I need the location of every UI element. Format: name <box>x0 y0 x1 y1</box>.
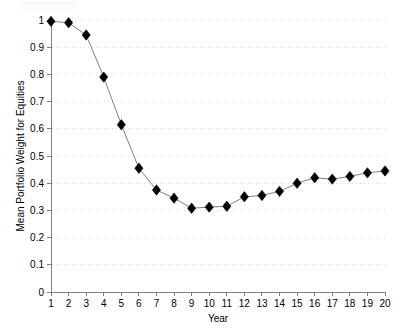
data-point-marker <box>346 171 354 181</box>
data-point-marker <box>293 178 301 188</box>
x-tick-labels: 1234567891011121314151617181920 <box>48 292 391 309</box>
data-point-marker <box>82 30 90 40</box>
data-point-marker <box>258 190 266 200</box>
data-point-marker <box>363 168 371 178</box>
x-tick-label: 17 <box>327 298 339 309</box>
y-tick-label: 0.6 <box>30 123 44 134</box>
data-point-markers <box>47 16 389 213</box>
data-point-marker <box>275 186 283 196</box>
data-point-marker <box>328 174 336 184</box>
x-tick-label: 11 <box>222 298 233 309</box>
x-tick-label: 19 <box>362 298 374 309</box>
data-point-marker <box>170 193 178 203</box>
x-tick-label: 5 <box>119 298 125 309</box>
data-point-marker <box>240 192 248 202</box>
y-tick-label: 0.9 <box>30 42 44 53</box>
y-tick-label: 0.4 <box>30 178 44 189</box>
data-point-marker <box>223 201 231 211</box>
x-tick-label: 6 <box>136 298 142 309</box>
y-tick-labels: 00.10.20.30.40.50.60.70.80.91 <box>30 15 51 298</box>
axes <box>51 20 385 292</box>
data-point-marker <box>100 72 108 82</box>
x-tick-label: 2 <box>66 298 72 309</box>
x-tick-label: 1 <box>48 298 54 309</box>
y-tick-label: 0.3 <box>30 205 44 216</box>
data-point-marker <box>64 18 72 28</box>
y-tick-label: 0 <box>38 287 44 298</box>
y-tick-label: 0.1 <box>30 259 44 270</box>
x-tick-label: 3 <box>83 298 89 309</box>
data-point-marker <box>47 16 55 26</box>
x-axis-title: Year <box>208 313 229 324</box>
x-tick-label: 7 <box>154 298 160 309</box>
y-tick-label: 1 <box>38 15 44 26</box>
x-tick-label: 10 <box>204 298 216 309</box>
x-tick-label: 12 <box>239 298 251 309</box>
y-axis-title: Mean Portfolio Weight for Equities <box>15 80 26 231</box>
chart-figure: 00.10.20.30.40.50.60.70.80.91 1234567891… <box>0 0 402 330</box>
y-tick-label: 0.8 <box>30 69 44 80</box>
x-tick-label: 13 <box>256 298 268 309</box>
x-tick-label: 20 <box>379 298 391 309</box>
data-point-marker <box>381 166 389 176</box>
data-point-marker <box>188 203 196 213</box>
y-tick-label: 0.7 <box>30 96 44 107</box>
x-tick-label: 8 <box>171 298 177 309</box>
gridlines <box>52 20 385 265</box>
data-point-marker <box>311 173 319 183</box>
line-chart: 00.10.20.30.40.50.60.70.80.91 1234567891… <box>0 0 402 330</box>
y-tick-label: 0.5 <box>30 151 44 162</box>
y-tick-label: 0.2 <box>30 232 44 243</box>
x-tick-label: 18 <box>344 298 356 309</box>
x-tick-label: 15 <box>292 298 304 309</box>
x-tick-label: 16 <box>309 298 321 309</box>
x-tick-label: 14 <box>274 298 286 309</box>
x-tick-label: 9 <box>189 298 195 309</box>
x-tick-label: 4 <box>101 298 107 309</box>
